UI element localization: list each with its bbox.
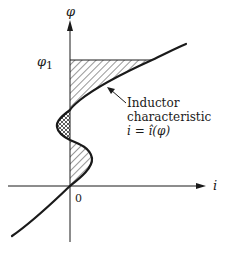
phi-axis-arrow-icon	[67, 20, 73, 31]
phi1-label: φ1	[37, 54, 53, 72]
annotation-pointer	[111, 90, 126, 103]
annotation-line-3: i = î(φ)	[127, 124, 170, 138]
origin-label: 0	[75, 192, 82, 205]
i-axis-arrow-icon	[196, 183, 206, 189]
phi1-label-sub: 1	[46, 59, 53, 72]
annotation-line-2: characteristic	[127, 110, 212, 124]
lower-hatched-area	[70, 140, 92, 186]
i-axis-label: i	[213, 178, 217, 193]
phi-axis-label: φ	[66, 4, 76, 19]
annotation-line-1: Inductor	[127, 96, 180, 110]
inductor-characteristic-diagram: φ φ1 i 0 Inductor characteristic i = î(φ…	[0, 0, 226, 254]
